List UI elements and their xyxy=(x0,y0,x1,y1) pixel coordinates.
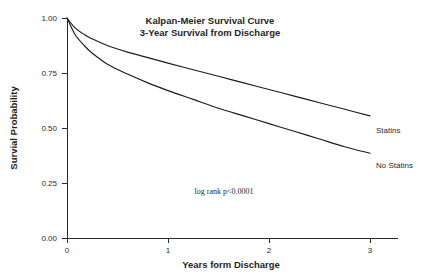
x-tick-label-0: 0 xyxy=(65,246,70,255)
chart-page: 0.00 0.25 0.50 0.75 1.00 0 1 2 3 Years f… xyxy=(0,0,421,275)
x-axis-title: Years form Discharge xyxy=(182,259,280,270)
survival-curve-no-statins xyxy=(67,18,370,153)
x-tick-label-1: 1 xyxy=(166,246,171,255)
y-axis-ticks xyxy=(62,18,67,238)
curve-label-no-statins: No Statins xyxy=(376,161,413,170)
y-tick-label-2: 0.50 xyxy=(41,124,57,133)
chart-subtitle: 3-Year Survival from Discharge xyxy=(140,27,280,38)
y-tick-label-0: 0.00 xyxy=(41,234,57,243)
y-tick-label-1: 0.25 xyxy=(41,179,57,188)
survival-curve-chart: 0.00 0.25 0.50 0.75 1.00 0 1 2 3 Years f… xyxy=(0,0,421,275)
x-axis-ticks xyxy=(67,238,370,243)
chart-title: Kalpan-Meier Survival Curve xyxy=(146,15,275,26)
log-rank-annotation: log rank p<0.0001 xyxy=(195,187,254,196)
y-axis-title: Survial Probability xyxy=(8,86,19,170)
x-tick-label-2: 2 xyxy=(267,246,272,255)
x-tick-label-3: 3 xyxy=(368,246,373,255)
y-tick-label-4: 1.00 xyxy=(41,14,57,23)
curve-label-statins: Statins xyxy=(376,126,400,135)
y-tick-label-3: 0.75 xyxy=(41,69,57,78)
